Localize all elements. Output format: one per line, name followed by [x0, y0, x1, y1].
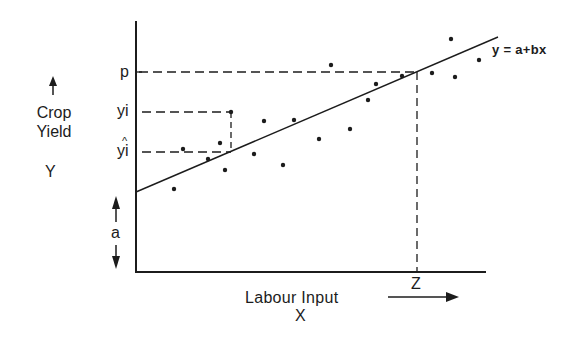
- regression-equation: y = a+bx: [492, 42, 546, 57]
- data-point: [252, 152, 256, 156]
- data-point: [181, 147, 185, 151]
- data-point: [449, 37, 453, 41]
- data-point: [430, 71, 434, 75]
- data-point: [453, 75, 457, 79]
- data-point: [223, 168, 227, 172]
- data-points: [172, 37, 481, 191]
- x-label-right-arrow-icon: [388, 292, 459, 302]
- data-point: [218, 141, 222, 145]
- tick-label-yi-hat: yi: [117, 143, 129, 158]
- y-axis-title-line2: Yield: [26, 122, 82, 141]
- data-point: [292, 118, 296, 122]
- data-point: [366, 98, 370, 102]
- y-axis-title: Crop Yield: [26, 103, 82, 141]
- tick-label-z: Z: [411, 276, 421, 291]
- tick-label-yi: yi: [117, 103, 129, 118]
- y-axis-symbol: Y: [45, 164, 56, 179]
- data-point: [262, 119, 266, 123]
- x-axis-symbol: X: [295, 308, 306, 323]
- data-point: [317, 137, 321, 141]
- data-point: [329, 63, 333, 67]
- data-point: [477, 58, 481, 62]
- data-point: [400, 74, 404, 78]
- data-point-yi: [229, 110, 233, 114]
- data-point: [172, 187, 176, 191]
- data-point: [206, 157, 210, 161]
- tick-label-p: p: [120, 64, 129, 79]
- regression-line: [136, 37, 498, 192]
- y-axis-title-line1: Crop: [26, 103, 82, 122]
- intercept-label: a: [111, 225, 120, 240]
- y-label-up-arrow-icon: [49, 76, 57, 95]
- data-point: [374, 82, 378, 86]
- data-point: [281, 163, 285, 167]
- data-point: [348, 127, 352, 131]
- x-axis-title: Labour Input: [245, 290, 338, 305]
